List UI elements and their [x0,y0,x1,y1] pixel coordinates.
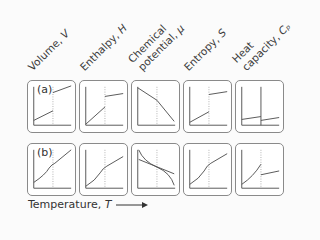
entropy-first-order-plot [184,81,231,132]
column-label-entropy: Entropy, S [182,27,228,73]
row-tag-a: (a) [37,83,52,96]
panel-a-enthalpy [79,80,128,133]
panel-b-heat-capacity [235,143,284,196]
heat-capacity-second-order-plot [236,144,283,195]
arrow-right-icon [115,201,149,209]
panel-b-entropy [183,143,232,196]
panel-b-enthalpy [79,143,128,196]
enthalpy-second-order-plot [80,144,127,195]
chemical-potential-second-order-plot [132,144,179,195]
heat-capacity-first-order-plot [236,81,283,132]
panel-a-chemical-potential [131,80,180,133]
enthalpy-first-order-plot [80,81,127,132]
column-label-enthalpy: Enthalpy, H [78,22,129,73]
panel-a-entropy [183,80,232,133]
chemical-potential-first-order-plot [132,81,179,132]
panel-a-heat-capacity [235,80,284,133]
panel-b-chemical-potential [131,143,180,196]
temperature-axis-label: Temperature, T [28,198,149,211]
column-label-volume: Volume, V [26,28,71,73]
row-tag-b: (b) [37,146,53,159]
panel-a-volume: (a) [27,80,76,133]
panel-b-volume: (b) [27,143,76,196]
entropy-second-order-plot [184,144,231,195]
